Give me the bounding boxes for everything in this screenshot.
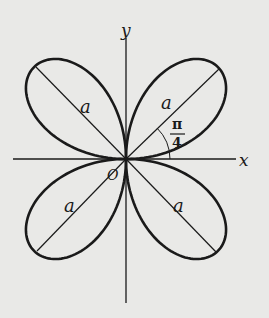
angle-label-denominator: 4 [172,135,182,151]
petal-label-lower-right: a [173,195,184,216]
rose-curve-diagram: y x O a a a a π 4 [0,0,269,318]
petal-label-upper-right: a [161,92,172,113]
petal-axis-lower-right [126,159,216,252]
origin-label: O [107,167,119,183]
y-axis-label: y [120,20,131,40]
angle-label-numerator: π [172,116,182,132]
petal-label-upper-left: a [80,96,91,117]
petal-label-lower-left: a [64,195,75,216]
x-axis-label: x [239,150,249,170]
